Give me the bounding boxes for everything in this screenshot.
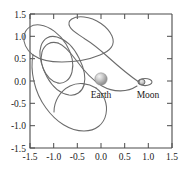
moon-icon — [139, 79, 145, 85]
earth-marker-group — [95, 73, 107, 85]
y-tick-label: -0.5 — [11, 99, 26, 109]
trajectory-bottom-petal — [41, 42, 84, 95]
x-tick-label: -1.5 — [22, 152, 37, 162]
y-tick-label: 0.5 — [14, 54, 26, 64]
x-tick-label: 1.0 — [142, 152, 154, 162]
x-tick-label: 1.5 — [166, 152, 178, 162]
moon-label: Moon — [137, 90, 160, 100]
y-tick-label: -1.0 — [11, 121, 26, 131]
x-tick-label: -1.0 — [46, 152, 61, 162]
y-tick-label: 1.5 — [14, 10, 26, 20]
earth-icon — [95, 73, 107, 85]
plot-canvas: 1.5 1.0 0.5 0.0 -0.5 -1.0 -1.5 -1.5 -1.0… — [0, 0, 186, 170]
x-tick-label: 0.0 — [95, 152, 107, 162]
trajectory-lower-inner-arc — [54, 84, 96, 112]
y-tick-label: 0.0 — [14, 77, 26, 87]
x-axis-tick-labels: -1.5 -1.0 -0.5 0.0 0.5 1.0 1.5 — [22, 152, 178, 162]
trajectory-figure: 1.5 1.0 0.5 0.0 -0.5 -1.0 -1.5 -1.5 -1.0… — [0, 0, 186, 170]
x-tick-label: 0.5 — [119, 152, 131, 162]
x-tick-label: -0.5 — [70, 152, 85, 162]
moon-marker-group — [138, 78, 152, 85]
earth-label: Earth — [91, 90, 112, 100]
y-axis-tick-labels: 1.5 1.0 0.5 0.0 -0.5 -1.0 -1.5 — [11, 10, 26, 154]
trajectory-left-petal — [24, 25, 73, 83]
